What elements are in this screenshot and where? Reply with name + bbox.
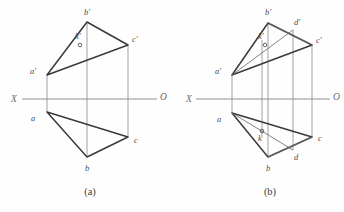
panel-b-label-d: d xyxy=(294,152,299,162)
panel-b-label-b: b xyxy=(266,163,270,173)
panel-b-caption: (b) xyxy=(264,186,277,198)
panel-a-axis-label-o: O xyxy=(160,92,167,102)
panel-a: b' c' a' k' a b c X O (a) xyxy=(10,7,167,198)
panel-a-frontal-triangle xyxy=(47,22,128,75)
panel-a-caption: (a) xyxy=(84,186,96,198)
panel-b-label-d-prime: d' xyxy=(294,17,300,27)
panel-b-label-k-prime: k' xyxy=(258,31,264,41)
panel-b-label-c: c xyxy=(318,133,322,143)
panel-a-point-k-prime-marker xyxy=(78,43,82,47)
panel-b-label-a-prime: a' xyxy=(215,66,221,76)
panel-a-label-c: c xyxy=(134,135,138,145)
panel-b-edge-b-c xyxy=(268,137,312,157)
panel-b-point-k-prime-marker xyxy=(263,43,267,47)
panel-a-label-k-prime: k' xyxy=(75,31,81,41)
panel-a-label-a-prime: a' xyxy=(30,66,36,76)
panel-b-label-c-prime: c' xyxy=(316,35,322,45)
panel-a-horizontal-triangle xyxy=(47,112,128,157)
panel-b-label-b-prime: b' xyxy=(265,7,271,17)
panel-b-edge-b-prime-c-prime xyxy=(268,23,312,45)
panel-a-label-b: b xyxy=(85,163,89,173)
panel-a-axis-label-x: X xyxy=(10,94,18,104)
panel-b: b' d' c' a' k' a k b d c X O (b) xyxy=(185,7,340,198)
panel-b-label-a: a xyxy=(217,114,221,124)
panel-b-aux-line-a-d xyxy=(232,113,293,150)
panel-a-label-b-prime: b' xyxy=(84,7,90,17)
panel-b-axis-label-o: O xyxy=(333,92,340,102)
technical-drawing-svg: b' c' a' k' a b c X O (a) xyxy=(0,0,344,212)
panel-b-horizontal-triangle xyxy=(232,113,312,157)
panel-a-label-a: a xyxy=(31,113,35,123)
panel-b-axis-label-x: X xyxy=(185,94,193,104)
panel-b-label-k: k xyxy=(258,133,262,143)
panel-a-label-c-prime: c' xyxy=(132,34,138,44)
figure-root: b' c' a' k' a b c X O (a) xyxy=(0,0,344,212)
panel-b-frontal-triangle xyxy=(232,23,312,75)
